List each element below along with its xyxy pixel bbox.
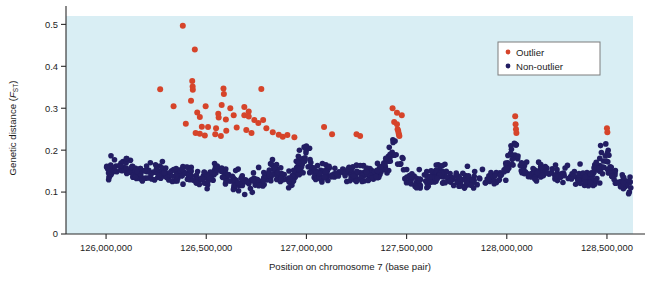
data-point-non-outlier [303,150,309,156]
y-axis-title-close: ) [7,81,18,84]
x-tick-label: 128,000,000 [481,242,533,253]
data-point-outlier [249,130,255,136]
data-point-non-outlier [320,161,326,167]
data-point-non-outlier [195,169,201,175]
data-point-non-outlier [628,185,634,191]
data-point-non-outlier [296,166,302,172]
data-point-non-outlier [133,174,139,180]
data-point-outlier [357,133,363,139]
data-point-non-outlier [357,163,363,169]
data-point-non-outlier [226,178,232,184]
data-point-non-outlier [179,166,185,172]
scatter-plot-figure: 00.10.20.30.40.5126,000,000126,500,00012… [0,0,658,282]
data-point-outlier [205,124,211,130]
data-point-outlier [284,132,290,138]
data-point-non-outlier [179,173,185,179]
data-point-outlier [241,104,247,110]
data-point-non-outlier [539,173,545,179]
data-point-non-outlier [440,163,446,169]
data-point-non-outlier [597,180,603,186]
data-point-non-outlier [170,173,176,179]
legend-marker-non-outlier [506,64,511,69]
data-point-non-outlier [605,150,611,156]
data-point-non-outlier [503,178,509,184]
x-tick-label: 126,000,000 [80,242,132,253]
data-point-non-outlier [591,165,597,171]
y-tick-label: 0.1 [45,186,58,197]
data-point-non-outlier [386,145,392,151]
data-point-non-outlier [148,160,154,166]
data-point-outlier [157,86,163,92]
data-point-non-outlier [256,182,262,188]
data-point-non-outlier [453,173,459,179]
data-point-outlier [321,124,327,130]
data-point-non-outlier [472,169,478,175]
data-point-outlier [390,105,396,111]
data-point-non-outlier [596,166,602,172]
data-point-outlier [263,125,269,131]
data-point-non-outlier [333,171,339,177]
data-point-outlier [171,103,177,109]
data-point-non-outlier [161,170,167,176]
x-tick-label: 128,500,000 [581,242,633,253]
data-point-outlier [219,102,225,108]
data-point-non-outlier [390,137,396,143]
data-point-non-outlier [180,181,186,187]
data-point-non-outlier [553,173,559,179]
data-point-non-outlier [251,170,257,176]
data-point-non-outlier [598,143,604,149]
data-point-non-outlier [477,176,483,182]
data-point-non-outlier [577,161,583,167]
data-point-non-outlier [375,169,381,175]
data-point-non-outlier [553,162,559,168]
data-point-outlier [234,125,240,131]
data-point-non-outlier [344,179,350,185]
data-point-non-outlier [465,164,471,170]
data-point-outlier [189,78,195,84]
data-point-outlier [513,130,519,136]
data-point-non-outlier [268,178,274,184]
data-point-non-outlier [532,176,538,182]
data-point-outlier [220,86,226,92]
data-point-non-outlier [278,176,284,182]
data-point-non-outlier [418,177,424,183]
data-point-non-outlier [345,166,351,172]
legend-marker-outlier [506,50,511,55]
data-point-non-outlier [416,167,422,173]
data-point-non-outlier [134,169,140,175]
data-point-non-outlier [609,173,615,179]
data-point-non-outlier [189,173,195,179]
data-point-non-outlier [297,147,303,153]
data-point-non-outlier [322,174,328,180]
data-point-non-outlier [365,178,371,184]
data-point-non-outlier [587,180,593,186]
x-tick-label: 127,500,000 [381,242,433,253]
data-point-non-outlier [112,157,118,163]
data-point-outlier [188,98,194,104]
x-axis-title: Position on chromosome 7 (base pair) [269,261,431,272]
data-point-non-outlier [187,168,193,174]
data-point-non-outlier [214,163,220,169]
data-point-non-outlier [364,169,370,175]
data-point-non-outlier [409,174,415,180]
data-point-outlier [396,133,402,139]
data-point-outlier [203,103,209,109]
data-point-non-outlier [251,178,257,184]
data-point-non-outlier [523,169,529,175]
data-point-outlier [231,112,237,118]
data-point-non-outlier [173,166,179,172]
y-tick-label: 0.5 [45,19,58,30]
data-point-non-outlier [236,188,242,194]
data-point-non-outlier [286,168,292,174]
data-point-non-outlier [220,175,226,181]
data-point-non-outlier [300,170,306,176]
data-point-outlier [246,114,252,120]
y-axis-title-text: Genetic distance ( [7,97,18,175]
data-point-non-outlier [238,176,244,182]
data-point-non-outlier [235,166,241,172]
data-point-non-outlier [354,169,360,175]
data-point-non-outlier [604,158,610,164]
data-point-non-outlier [163,165,169,171]
data-point-outlier [223,128,229,134]
data-point-non-outlier [193,180,199,186]
